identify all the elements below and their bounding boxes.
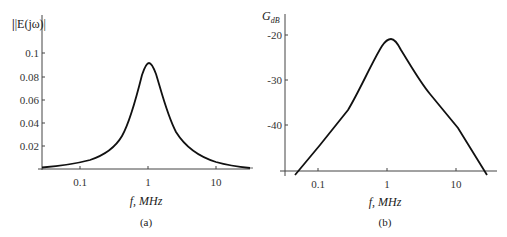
caption-a: (a) xyxy=(140,216,153,229)
b-curve xyxy=(295,39,487,175)
a-y-axis-title: ||E(jω)| xyxy=(12,17,46,31)
a-ytick-label: 0.02 xyxy=(20,140,39,152)
caption-b: (b) xyxy=(379,216,392,229)
b-ytick-label: -20 xyxy=(267,29,282,41)
b-y-axis-title: GdB xyxy=(262,9,280,25)
b-x-axis-title: f, MHz xyxy=(369,195,402,209)
a-ytick-label: 0.06 xyxy=(20,94,40,106)
a-xtick-label: 0.1 xyxy=(73,176,87,188)
b-ytick-label: -30 xyxy=(267,74,282,86)
figure: 0.1 0.08 0.06 0.04 0.02 0.1 1 10 ||E(jω)… xyxy=(0,0,507,237)
b-xtick-label: 1 xyxy=(384,178,390,190)
b-xtick-label: 0.1 xyxy=(311,178,325,190)
a-curve xyxy=(42,63,250,168)
b-xtick-label: 10 xyxy=(451,178,463,190)
a-x-axis-title: f, MHz xyxy=(130,194,163,208)
panel-b: -20 -30 -40 0.1 1 10 GdB f, MHz (b) xyxy=(262,9,497,229)
panel-a: 0.1 0.08 0.06 0.04 0.02 0.1 1 10 ||E(jω)… xyxy=(12,15,250,229)
a-ytick-label: 0.04 xyxy=(20,117,40,129)
a-ytick-label: 0.1 xyxy=(25,47,39,59)
a-ytick-label: 0.08 xyxy=(20,71,40,83)
b-ytick-label: -40 xyxy=(267,119,282,131)
a-xtick-label: 1 xyxy=(145,176,151,188)
a-xtick-label: 10 xyxy=(211,176,223,188)
